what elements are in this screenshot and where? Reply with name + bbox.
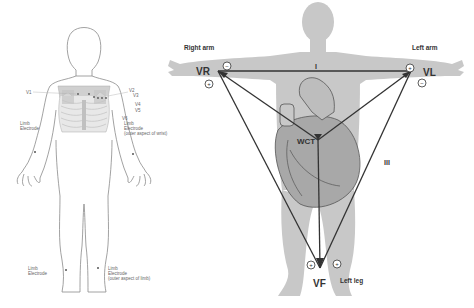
left-body-outline xyxy=(17,28,151,293)
plus-sign-vl: + xyxy=(408,65,412,71)
electrode-v3 xyxy=(93,96,95,98)
head-outline xyxy=(67,28,101,77)
right-leg-outline xyxy=(60,196,85,292)
right-arm-electrode-label: Electrode xyxy=(20,126,40,131)
electrode-v2 xyxy=(88,93,90,95)
right-leg-electrode-label: Electrode xyxy=(28,271,48,276)
right-arm-label: Right arm xyxy=(184,44,215,52)
left-inner-arm xyxy=(40,110,56,178)
right-ankle-electrode xyxy=(65,269,67,271)
ecg-diagram: V1 V2 V3 V4 V5 V6 Limb Electrode Limb El… xyxy=(0,0,474,308)
left-arm-outer-wrist-label: (outer aspect of wrist) xyxy=(124,131,168,136)
electrode-v4 xyxy=(97,97,99,99)
label-v3: V3 xyxy=(133,93,139,98)
electrode-v6 xyxy=(105,97,107,99)
left-hand-outline xyxy=(128,172,151,186)
minus-sign-vl: − xyxy=(420,80,424,86)
left-arm-label: Left arm xyxy=(412,44,438,51)
minus-sign-vr: − xyxy=(225,63,229,69)
label-v1: V1 xyxy=(26,90,32,95)
vl-label: VL xyxy=(423,67,436,78)
left-leg-outline xyxy=(84,196,109,292)
hip-outline xyxy=(56,140,112,196)
vr-label: VR xyxy=(196,66,211,77)
plus-sign-vf-left: + xyxy=(309,262,313,268)
electrode-v5 xyxy=(101,97,103,99)
label-v5: V5 xyxy=(135,108,141,113)
left-leg-outer-limb-label: (outer aspect of limb) xyxy=(108,276,151,281)
label-v4: V4 xyxy=(135,102,141,107)
lead-i-label: I xyxy=(315,63,317,70)
vf-label: VF xyxy=(313,278,326,289)
left-leg-label: Left leg xyxy=(340,277,363,285)
wct-label: WCT xyxy=(297,137,315,146)
electrode-v1 xyxy=(77,93,79,95)
left-ankle-electrode xyxy=(97,267,99,269)
right-hand-outline xyxy=(17,172,40,186)
right-wrist-electrode xyxy=(34,151,36,153)
lead-iii-label: III xyxy=(384,159,390,166)
plus-sign-vr: + xyxy=(207,81,211,87)
left-wrist-electrode xyxy=(132,153,134,155)
plus-sign-vf-right: + xyxy=(335,261,339,267)
ribcage xyxy=(58,86,110,132)
